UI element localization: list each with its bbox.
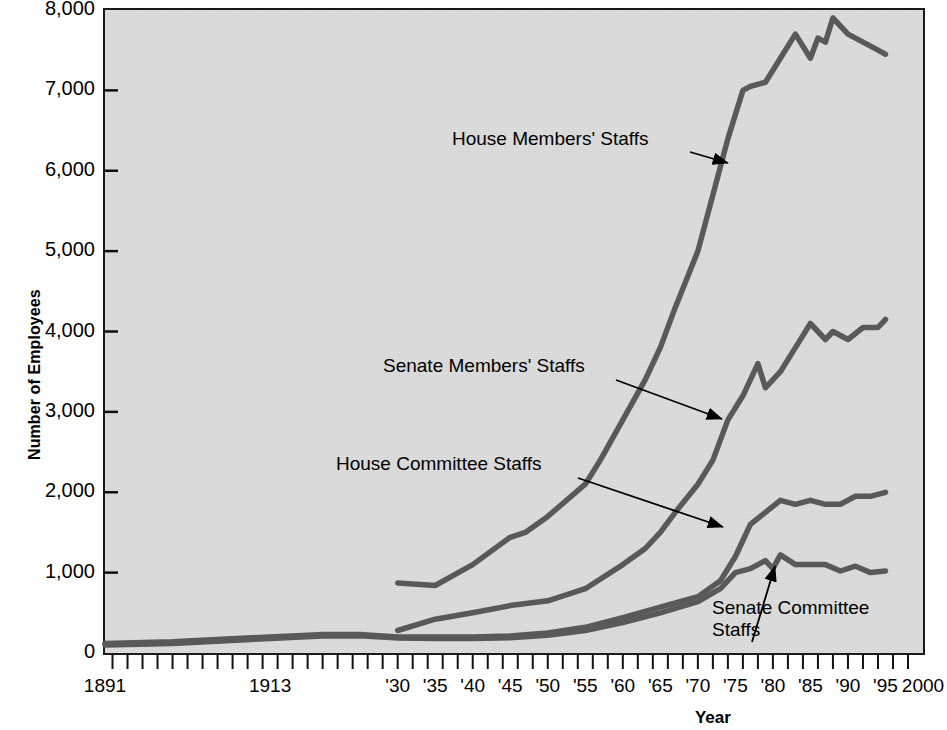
y-tick-label: 5,000	[45, 238, 95, 261]
y-tick-label: 4,000	[45, 319, 95, 342]
series-annotation-label: Senate Committee Staffs	[712, 597, 892, 642]
y-tick-label: 0	[84, 640, 95, 663]
y-tick-label: 1,000	[45, 560, 95, 583]
x-tick-label: 2000	[863, 675, 947, 697]
chart-container: Number of Employees Year 01,0002,0003,00…	[0, 0, 947, 730]
series-annotation-label: Senate Members' Staffs	[383, 355, 585, 377]
y-tick-label: 2,000	[45, 479, 95, 502]
x-axis-minor-ticks	[113, 655, 908, 669]
series-annotation-label: House Committee Staffs	[336, 453, 542, 475]
series-annotation-label: House Members' Staffs	[452, 128, 649, 150]
y-tick-label: 7,000	[45, 77, 95, 100]
x-tick-label: 1913	[210, 675, 330, 697]
y-axis-ticks	[105, 90, 118, 572]
y-tick-label: 6,000	[45, 158, 95, 181]
annotation-arrow	[578, 478, 723, 527]
y-tick-label: 3,000	[45, 399, 95, 422]
y-tick-label: 8,000	[45, 0, 95, 20]
x-tick-label: 1891	[45, 675, 165, 697]
series-lines	[105, 18, 886, 645]
